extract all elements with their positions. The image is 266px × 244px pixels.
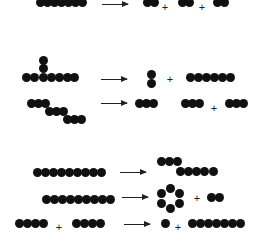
bead-dot (161, 219, 170, 228)
bead-dot (166, 184, 175, 193)
bead-dot (157, 189, 166, 198)
bead-dot (239, 99, 248, 108)
reaction-arrow-icon (102, 4, 128, 5)
bead-dot (147, 79, 156, 88)
bead-dot (175, 189, 184, 198)
bead-dot (173, 157, 182, 166)
bead-dot (106, 195, 115, 204)
reaction-arrow-icon (122, 197, 148, 198)
reaction-diagram: +++++++ (0, 0, 266, 244)
reaction-arrow-icon (124, 224, 150, 225)
plus-sign: + (160, 2, 170, 13)
plus-sign: + (209, 103, 219, 114)
bead-dot (185, 0, 194, 7)
bead-dot (39, 64, 48, 73)
bead-dot (96, 219, 105, 228)
bead-dot (157, 199, 166, 208)
bead-dot (175, 199, 184, 208)
plus-sign: + (197, 2, 207, 13)
reaction-arrow-icon (101, 79, 127, 80)
bead-dot (166, 204, 175, 213)
plus-sign: + (173, 222, 183, 233)
bead-dot (150, 0, 159, 7)
bead-dot (147, 70, 156, 79)
bead-dot (215, 193, 224, 202)
bead-dot (226, 73, 235, 82)
bead-dot (77, 115, 86, 124)
reaction-arrow-icon (101, 103, 127, 104)
plus-sign: + (165, 74, 175, 85)
plus-sign: + (54, 222, 64, 233)
reaction-arrow-icon (120, 172, 146, 173)
bead-dot (78, 0, 87, 7)
bead-dot (220, 0, 229, 7)
bead-dot (195, 99, 204, 108)
bead-dot (70, 73, 79, 82)
bead-dot (209, 167, 218, 176)
bead-dot (97, 168, 106, 177)
bead-dot (236, 219, 245, 228)
bead-dot (30, 73, 39, 82)
bead-dot (200, 167, 209, 176)
plus-sign: + (192, 193, 202, 204)
bead-dot (39, 219, 48, 228)
bead-dot (149, 99, 158, 108)
